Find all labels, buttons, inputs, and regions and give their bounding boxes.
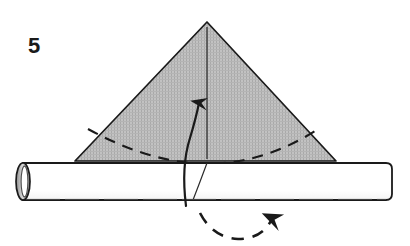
triangle-body [75,22,336,161]
step-number: 5 [28,33,40,58]
tube-open-end-inner [21,166,28,197]
origami-step-figure: 5 [0,0,410,246]
paper-tube [16,163,392,200]
tube-body [23,163,392,200]
diagram-canvas: 5 [0,0,410,246]
folded-paper-triangle [75,22,336,164]
rotate-arrow [200,213,272,239]
